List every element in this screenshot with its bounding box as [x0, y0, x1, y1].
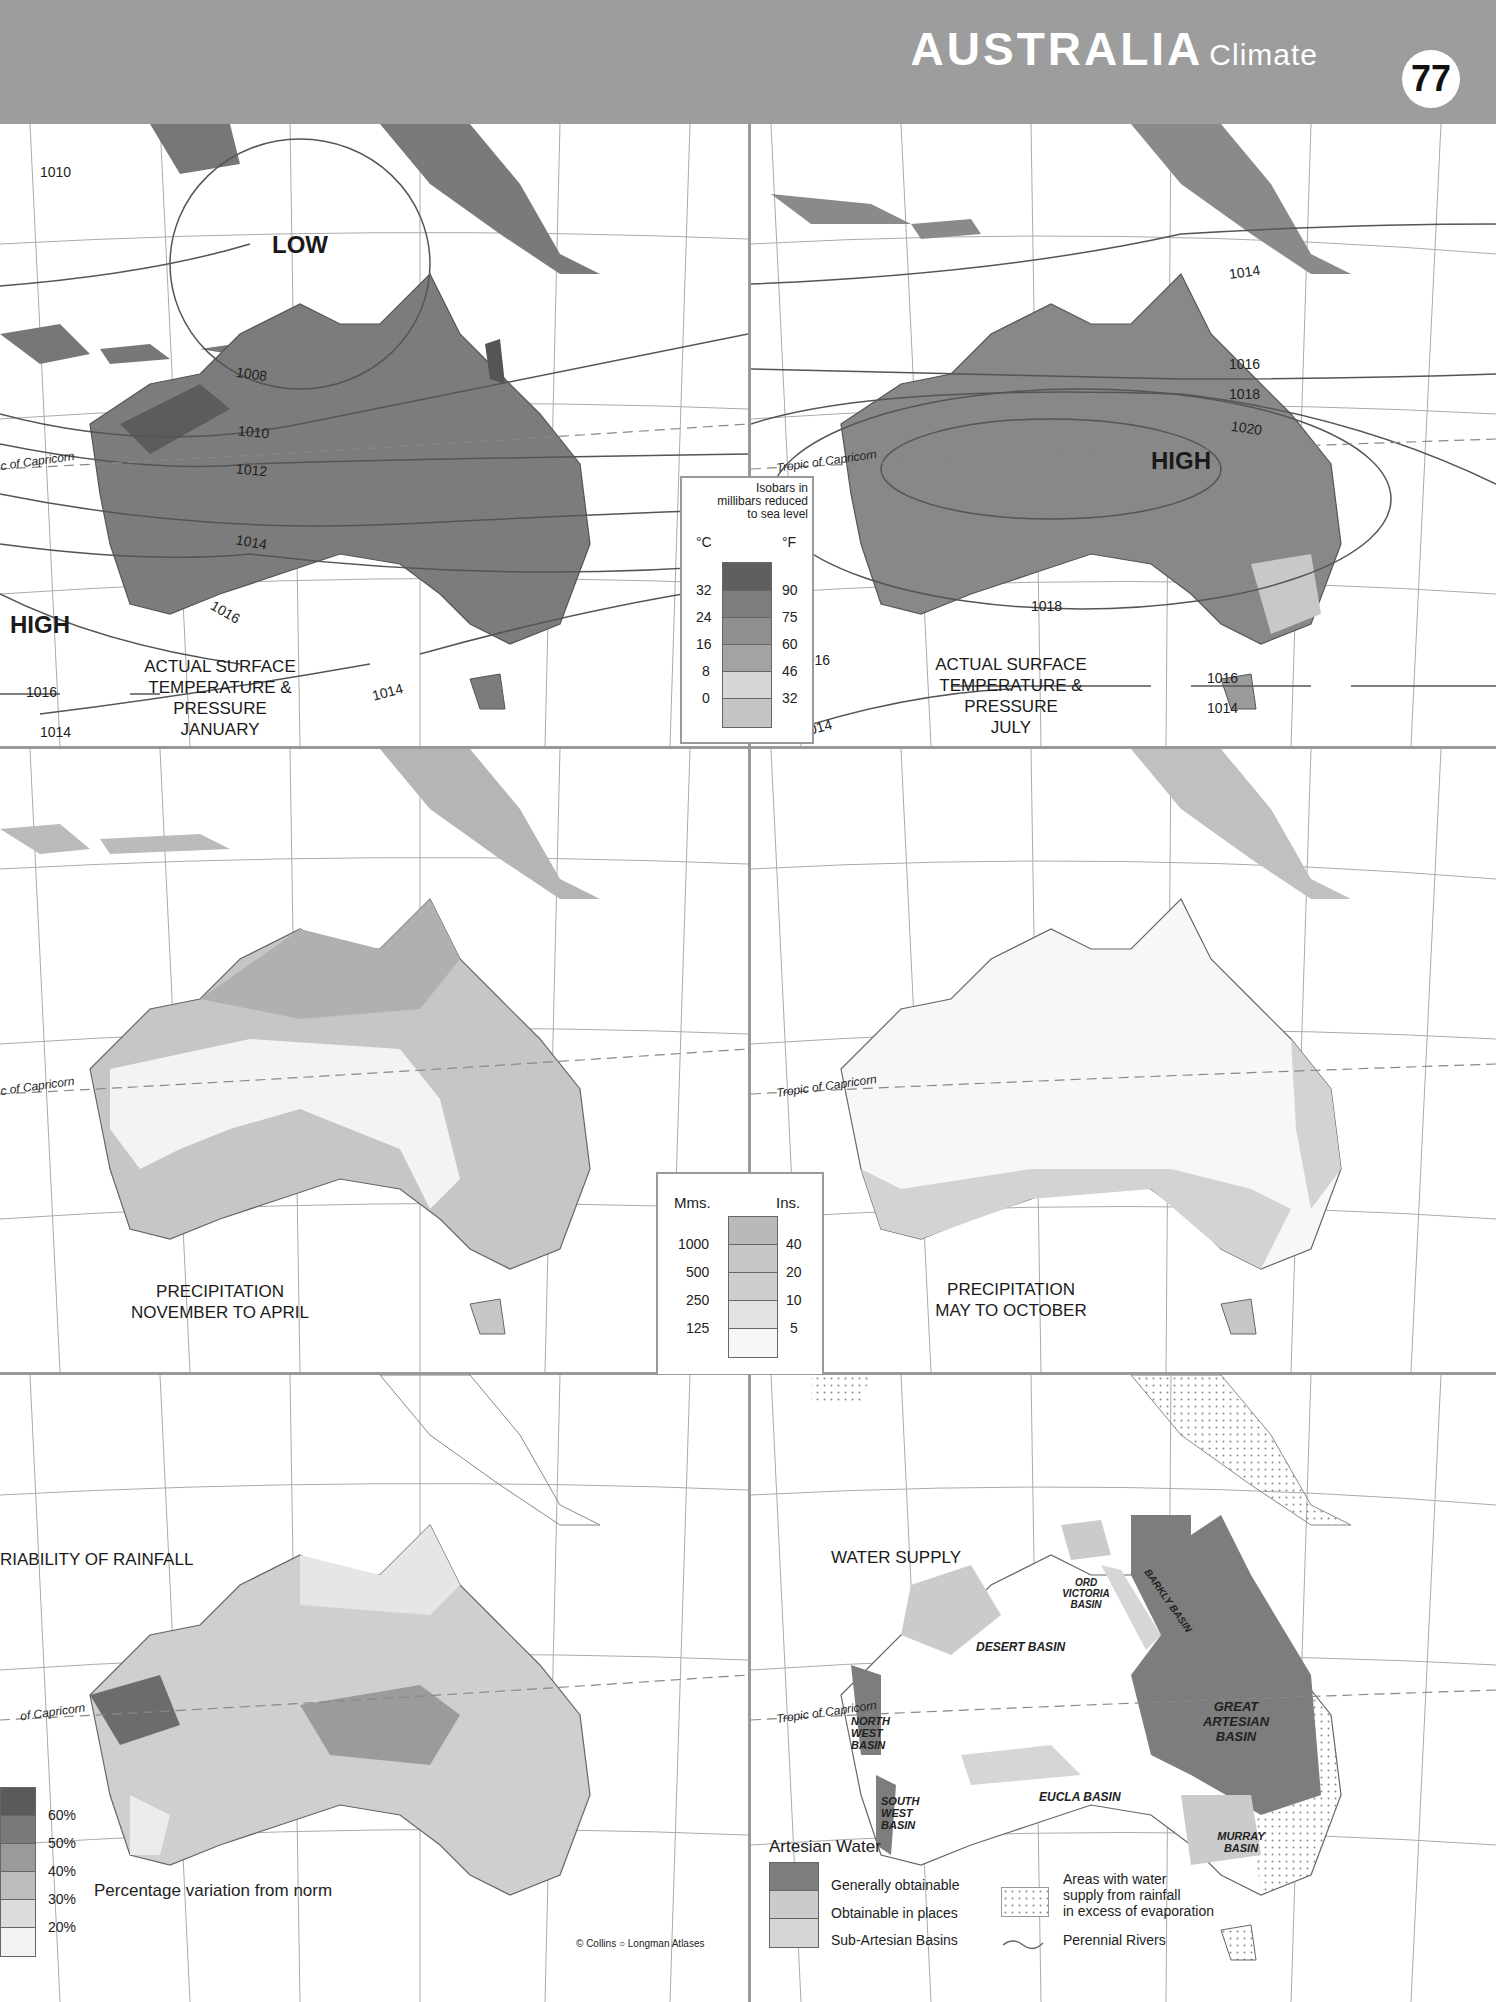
celsius-value: 16 — [696, 636, 712, 652]
isobar-label: 1018 — [1229, 386, 1260, 402]
map-title: PRECIPITATION NOVEMBER TO APRIL — [110, 1281, 330, 1323]
title-line: MAY TO OCTOBER — [901, 1300, 1121, 1321]
title-subtitle: Climate — [1209, 38, 1318, 71]
title-line: JANUARY — [110, 719, 330, 740]
label-line: in excess of evaporation — [1063, 1903, 1214, 1919]
isobar-label: 1012 — [235, 461, 267, 480]
basin-label-eucla: EUCLA BASIN — [1039, 1790, 1121, 1804]
variability-swatch — [0, 1787, 36, 1817]
variability-value: 20% — [48, 1919, 76, 1935]
variability-value: 40% — [48, 1863, 76, 1879]
map-graphic — [0, 124, 748, 746]
map-january-temperature-pressure: LOW HIGH 1010 1008 1010 1012 1014 1016 1… — [0, 124, 748, 746]
precipitation-legend: Mms. Ins. 1000 500 250 125 40 20 10 5 — [656, 1172, 824, 1376]
map-graphic — [751, 124, 1496, 746]
precip-swatch — [728, 1216, 778, 1246]
map-graphic — [751, 749, 1496, 1372]
variability-swatch — [0, 1871, 36, 1901]
legend-item: Generally obtainable — [831, 1877, 959, 1893]
fahrenheit-value: 32 — [782, 690, 798, 706]
map-precipitation-nov-apr: c of Capricorn PRECIPITATION NOVEMBER TO… — [0, 749, 748, 1372]
isobar-label: 1010 — [40, 164, 71, 180]
inches-unit: Ins. — [776, 1194, 800, 1211]
page-header: AUSTRALIAClimate 77 — [0, 0, 1496, 124]
river-line-icon — [1001, 1935, 1051, 1951]
map-title: WATER SUPPLY — [831, 1547, 961, 1568]
basin-label-ord-victoria: ORD VICTORIA BASIN — [1056, 1577, 1116, 1610]
temp-swatch — [722, 617, 772, 646]
precip-swatch — [728, 1328, 778, 1358]
artesian-swatch-sub — [769, 1918, 819, 1948]
basin-label-desert: DESERT BASIN — [976, 1640, 1065, 1654]
variability-swatch — [0, 1815, 36, 1845]
isobar-label: 1016 — [1207, 670, 1238, 686]
precip-swatch — [728, 1300, 778, 1330]
title-main: AUSTRALIA — [911, 23, 1204, 75]
basin-label-great-artesian: GREAT ARTESIAN BASIN — [1181, 1699, 1291, 1744]
inches-value: 10 — [786, 1292, 802, 1308]
rivers-label: Perennial Rivers — [1063, 1932, 1166, 1948]
rainfall-excess-label: Areas with water supply from rainfall in… — [1063, 1871, 1214, 1919]
map-graphic — [0, 749, 748, 1372]
legend-title: Artesian Water — [769, 1837, 881, 1857]
inches-value: 40 — [786, 1236, 802, 1252]
fahrenheit-value: 46 — [782, 663, 798, 679]
legend-caption: Percentage variation from norm — [94, 1881, 332, 1901]
legend-item: Obtainable in places — [831, 1905, 958, 1921]
basin-label-south-west: SOUTH WEST BASIN — [881, 1795, 921, 1831]
temp-swatch — [722, 698, 772, 728]
basin-label-murray: MURRAY BASIN — [1216, 1830, 1266, 1854]
variability-value: 50% — [48, 1835, 76, 1851]
label-line: Areas with water — [1063, 1871, 1214, 1887]
basin-label-north-west: NORTH WEST BASIN — [851, 1715, 891, 1751]
temperature-legend: Isobars in millibars reduced to sea leve… — [680, 476, 814, 744]
map-precipitation-may-oct: Tropic of Capricorn PRECIPITATION MAY TO… — [751, 749, 1496, 1372]
high-pressure-label: HIGH — [10, 614, 70, 635]
fahrenheit-unit: °F — [782, 534, 796, 550]
title-line: JULY — [901, 717, 1121, 738]
map-title: PRECIPITATION MAY TO OCTOBER — [901, 1279, 1121, 1321]
title-line: ACTUAL SURFACE — [901, 654, 1121, 675]
isobar-label: 1018 — [1031, 598, 1062, 614]
mm-value: 125 — [686, 1320, 709, 1336]
precip-swatch — [728, 1272, 778, 1302]
mm-value: 500 — [686, 1264, 709, 1280]
celsius-value: 32 — [696, 582, 712, 598]
high-pressure-label: HIGH — [1151, 450, 1211, 471]
map-title: ACTUAL SURFACE TEMPERATURE & PRESSURE JA… — [110, 656, 330, 740]
temp-swatch — [722, 671, 772, 700]
map-july-temperature-pressure: HIGH 1014 1016 1018 1020 1018 1016 1016 … — [751, 124, 1496, 746]
title-line: NOVEMBER TO APRIL — [110, 1302, 330, 1323]
variability-swatch — [0, 1899, 36, 1929]
isobar-label: 1010 — [237, 423, 269, 442]
precip-swatch — [728, 1244, 778, 1274]
low-pressure-label: LOW — [272, 234, 328, 255]
rainfall-excess-swatch — [1001, 1887, 1049, 1917]
isobar-label: 1016 — [26, 684, 57, 700]
isobar-label: 1016 — [1229, 356, 1260, 372]
map-title: RIABILITY OF RAINFALL — [0, 1549, 193, 1570]
legend-item: Sub-Artesian Basins — [831, 1932, 958, 1948]
celsius-value: 24 — [696, 609, 712, 625]
page-title: AUSTRALIAClimate — [911, 22, 1318, 76]
variability-value: 30% — [48, 1891, 76, 1907]
temp-swatch — [722, 562, 772, 592]
note-line: to sea level — [717, 508, 808, 521]
artesian-swatch-generally — [769, 1862, 819, 1892]
celsius-value: 8 — [702, 663, 710, 679]
copyright-credit: © Collins ○ Longman Atlases — [576, 1938, 704, 1949]
inches-value: 5 — [790, 1320, 798, 1336]
variability-swatch — [0, 1927, 36, 1957]
mm-value: 250 — [686, 1292, 709, 1308]
fahrenheit-value: 60 — [782, 636, 798, 652]
fahrenheit-value: 75 — [782, 609, 798, 625]
map-graphic — [0, 1375, 748, 2002]
title-line: ACTUAL SURFACE — [110, 656, 330, 677]
artesian-swatch-places — [769, 1890, 819, 1920]
title-line: PRECIPITATION — [901, 1279, 1121, 1300]
inches-value: 20 — [786, 1264, 802, 1280]
map-water-supply: WATER SUPPLY Tropic of Capricorn ORD VIC… — [751, 1375, 1496, 2002]
isobar-label: 1014 — [40, 724, 71, 740]
fahrenheit-value: 90 — [782, 582, 798, 598]
isobar-note: Isobars in millibars reduced to sea leve… — [717, 482, 808, 521]
